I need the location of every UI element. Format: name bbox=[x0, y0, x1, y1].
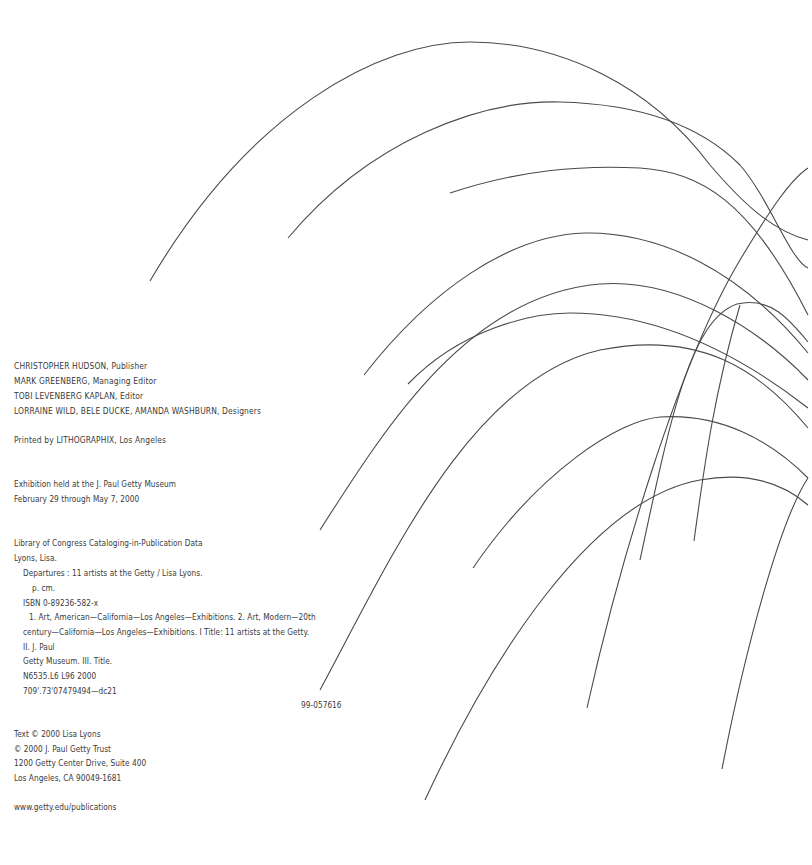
arc-10 bbox=[587, 168, 808, 708]
printer-name: LITHOGRAPHIX bbox=[56, 435, 114, 445]
arc-8 bbox=[473, 417, 808, 568]
address-line1: 1200 Getty Center Drive, Suite 400 bbox=[14, 758, 146, 768]
credit-editor: TOBI LEVENBERG KAPLAN, Editor bbox=[14, 391, 143, 401]
cip-title: Departures : 11 artists at the Getty / L… bbox=[23, 568, 203, 578]
copyright-text: Text © 2000 Lisa Lyons bbox=[14, 729, 101, 739]
cip-lccn: 99-057616 bbox=[301, 700, 342, 710]
designers-names: LORRAINE WILD, BELE DUCKE, AMANDA WASHBU… bbox=[14, 406, 217, 416]
credit-designers: LORRAINE WILD, BELE DUCKE, AMANDA WASHBU… bbox=[14, 406, 261, 416]
designers-role: , Designers bbox=[217, 406, 261, 416]
cip-call-number: N6535.L6 L96 2000 bbox=[23, 671, 96, 681]
cip-pages: p. cm. bbox=[32, 583, 55, 593]
arc-1 bbox=[150, 42, 808, 281]
address-line2: Los Angeles, CA 90049-1681 bbox=[14, 773, 121, 783]
arc-3 bbox=[450, 167, 808, 315]
arc-7 bbox=[320, 345, 808, 690]
exhibition-dates: February 29 through May 7, 2000 bbox=[14, 494, 139, 504]
arc-6 bbox=[408, 313, 808, 408]
credit-managing-editor: MARK GREENBERG, Managing Editor bbox=[14, 376, 157, 386]
decorative-arcs-illustration bbox=[0, 0, 812, 865]
managing-editor-role: , Managing Editor bbox=[88, 376, 157, 386]
cip-dewey: 709'.73'07479494—dc21 bbox=[23, 686, 117, 696]
cip-heading: Library of Congress Cataloging-in-Public… bbox=[14, 538, 202, 548]
printer-suffix: , Los Angeles bbox=[114, 435, 166, 445]
publisher-name: CHRISTOPHER HUDSON bbox=[14, 361, 106, 371]
publisher-role: , Publisher bbox=[106, 361, 147, 371]
managing-editor-name: MARK GREENBERG bbox=[14, 376, 88, 386]
cip-subjects-line2: century—California—Los Angeles—Exhibitio… bbox=[23, 627, 309, 637]
editor-name: TOBI LEVENBERG KAPLAN bbox=[14, 391, 115, 401]
printer-prefix: Printed by bbox=[14, 435, 56, 445]
cip-isbn: ISBN 0-89236-582-x bbox=[23, 598, 98, 608]
cip-added-entry-2: Getty Museum. III. Title. bbox=[23, 656, 112, 666]
editor-role: , Editor bbox=[115, 391, 143, 401]
credit-printer: Printed by LITHOGRAPHIX, Los Angeles bbox=[14, 435, 166, 445]
cip-added-entry-1: II. J. Paul bbox=[23, 642, 55, 652]
cip-author: Lyons, Lisa. bbox=[14, 553, 57, 563]
arc-2 bbox=[288, 102, 808, 268]
colophon-page: CHRISTOPHER HUDSON, Publisher MARK GREEN… bbox=[0, 0, 812, 865]
copyright-trust: © 2000 J. Paul Getty Trust bbox=[14, 744, 111, 754]
website-url[interactable]: www.getty.edu/publications bbox=[14, 802, 116, 812]
arc-5 bbox=[320, 284, 808, 530]
exhibition-venue: Exhibition held at the J. Paul Getty Mus… bbox=[14, 479, 176, 489]
arc-11 bbox=[722, 478, 808, 769]
credit-publisher: CHRISTOPHER HUDSON, Publisher bbox=[14, 361, 147, 371]
arc-9 bbox=[425, 477, 808, 800]
cip-subjects-line1: 1. Art, American—California—Los Angeles—… bbox=[29, 612, 316, 622]
